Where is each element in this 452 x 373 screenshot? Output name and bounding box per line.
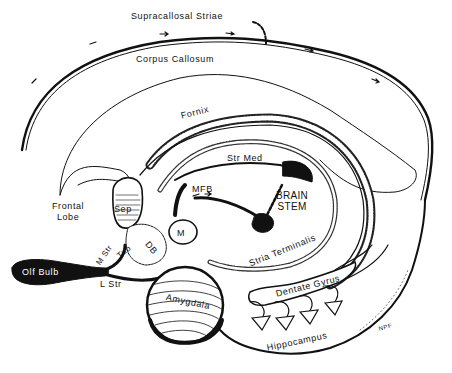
label-mammillary: M	[177, 229, 185, 238]
label-brain-stem-line1: BRAIN	[276, 190, 308, 201]
septum-shape	[113, 178, 143, 229]
label-mfb: MFB	[192, 185, 213, 194]
label-lateral-stria: L Str	[100, 280, 122, 289]
label-frontal-lobe-line1: Frontal	[52, 201, 84, 212]
illustration	[0, 0, 452, 373]
label-corpus-callosum: Corpus Callosum	[136, 55, 214, 64]
label-frontal-lobe-line2: Lobe	[52, 212, 84, 223]
label-brain-stem-line2: STEM	[276, 201, 308, 212]
mfb-path	[195, 198, 260, 218]
label-frontal-lobe: Frontal Lobe	[52, 201, 84, 224]
label-septum: Sep	[114, 205, 132, 214]
label-str-med: Str Med	[227, 154, 263, 163]
label-supracallosal-striae: Supracallosal Striae	[131, 12, 223, 21]
label-olfactory-bulb: Olf Bulb	[22, 268, 59, 277]
limbic-system-diagram: Supracallosal Striae Corpus Callosum For…	[0, 0, 452, 373]
label-brain-stem: BRAIN STEM	[276, 190, 308, 212]
